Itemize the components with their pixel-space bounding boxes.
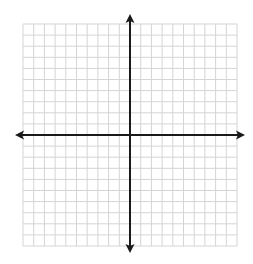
axes	[15, 14, 245, 253]
coordinate-plane	[0, 0, 253, 264]
